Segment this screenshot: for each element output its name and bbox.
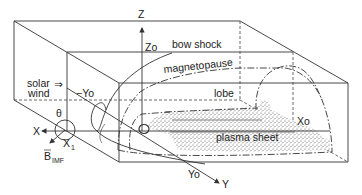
minus-y0-label: −Yo	[76, 87, 94, 99]
y0-label: Yo	[188, 168, 200, 180]
x1-subscript: 1	[71, 144, 75, 151]
bow-shock-label: bow shock	[172, 38, 222, 50]
plasma-sheet-label: plasma sheet	[216, 131, 279, 143]
solar-wind-label-2: wind	[27, 87, 50, 99]
y-axis-label: Y	[222, 178, 229, 190]
magnetosphere-diagram: Z Zo bow shock magnetopause solar wind ⇒…	[0, 0, 362, 195]
b-imf-label: B	[44, 150, 51, 162]
lobe-label: lobe	[214, 87, 234, 99]
z0-label: Zo	[145, 41, 157, 53]
z-axis-label: Z	[138, 8, 145, 20]
earth-origin	[139, 125, 149, 134]
x1-label: X	[63, 137, 70, 149]
theta-label: θ	[56, 107, 62, 119]
solar-wind-arrow-icon: ⇒	[54, 78, 63, 90]
x-axis-label: X	[33, 125, 40, 137]
x0-label: Xo	[297, 115, 310, 127]
b-imf-subscript: IMF	[52, 157, 64, 164]
